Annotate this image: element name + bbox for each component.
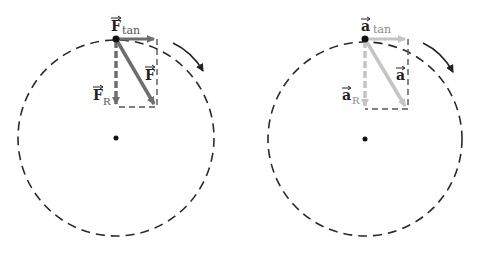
svg-text:tan: tan (122, 24, 140, 37)
label-f-net: F (145, 65, 155, 83)
label-a-tan: a tan (361, 17, 391, 36)
label-f-radial: F R (93, 85, 111, 107)
diagram-canvas: F tan F R F a tan a R a (0, 0, 479, 255)
label-a-radial: a R (342, 86, 360, 106)
center-dot (363, 137, 368, 142)
label-f-tan: F tan (111, 16, 140, 37)
svg-text:R: R (352, 95, 360, 106)
clockwise-rotation-arrow-icon (173, 43, 203, 71)
label-a-net: a (396, 66, 405, 83)
acceleration-panel (268, 36, 462, 237)
clockwise-rotation-arrow-icon (423, 43, 453, 72)
force-panel (18, 36, 214, 237)
svg-text:F: F (111, 18, 121, 34)
object-point (362, 36, 369, 43)
svg-text:tan: tan (373, 23, 391, 36)
svg-text:F: F (145, 67, 155, 83)
svg-text:R: R (103, 96, 111, 107)
svg-text:F: F (93, 87, 103, 103)
object-point (113, 36, 120, 43)
center-dot (114, 136, 119, 141)
